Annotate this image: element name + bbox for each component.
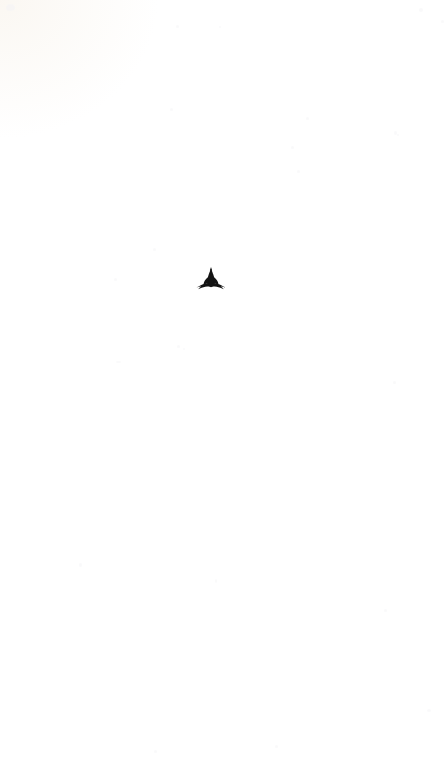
scan-speckle-layer — [0, 0, 447, 760]
scan-speckle — [393, 381, 396, 384]
scan-speckle — [441, 20, 444, 23]
scan-speckle — [384, 609, 387, 612]
scan-speckle — [215, 579, 217, 583]
scan-speckle — [306, 117, 309, 120]
scan-speckle — [427, 709, 431, 712]
scan-speckle — [79, 563, 82, 567]
scanner-corner-tint — [0, 0, 160, 140]
scan-speckle — [177, 345, 180, 348]
page-body-text — [0, 0, 1, 1]
scan-speckle — [219, 26, 221, 28]
scan-speckle — [394, 131, 397, 135]
scan-speckle — [297, 170, 300, 173]
scan-speckle — [154, 750, 157, 753]
scanned-page — [0, 0, 447, 760]
scan-speckle — [176, 25, 179, 28]
scan-speckle — [6, 4, 15, 11]
scan-speckle — [153, 248, 156, 251]
scan-speckle — [116, 361, 121, 363]
scan-speckle — [275, 745, 278, 748]
scan-speckle — [114, 278, 117, 281]
scan-speckle — [291, 146, 294, 149]
scan-speckle — [183, 348, 185, 350]
scan-speckle — [397, 134, 399, 136]
scan-speckle — [170, 108, 173, 111]
fleuron-ornament — [195, 267, 227, 291]
scan-speckle — [419, 8, 423, 12]
